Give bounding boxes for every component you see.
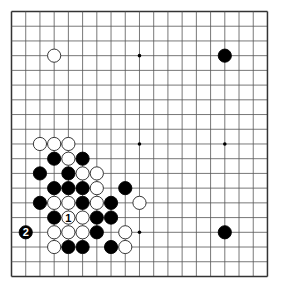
white-stone <box>76 167 89 180</box>
black-stone <box>48 152 61 165</box>
move-number-label: 2 <box>23 226 29 238</box>
black-stone <box>62 240 75 253</box>
black-stone <box>76 152 89 165</box>
star-point <box>138 142 142 146</box>
white-stone <box>62 196 75 209</box>
star-point <box>138 231 142 235</box>
black-stone <box>119 182 132 195</box>
black-stone <box>76 196 89 209</box>
white-stone <box>48 137 61 150</box>
star-point <box>138 54 142 58</box>
black-stone <box>48 182 61 195</box>
star-point <box>223 142 227 146</box>
white-stone <box>133 196 146 209</box>
white-stone-move-1: 1 <box>62 211 75 224</box>
white-stone <box>119 240 132 253</box>
white-stone <box>48 49 61 62</box>
white-stone <box>62 152 75 165</box>
white-stone <box>62 226 75 239</box>
white-stone <box>48 196 61 209</box>
white-stone <box>119 226 132 239</box>
black-stone <box>76 182 89 195</box>
black-stone <box>62 167 75 180</box>
white-stone <box>90 167 103 180</box>
black-stone <box>90 211 103 224</box>
white-stone <box>62 137 75 150</box>
black-stone <box>104 240 117 253</box>
white-stone <box>48 226 61 239</box>
black-stone <box>90 226 103 239</box>
black-stone <box>104 211 117 224</box>
white-stone <box>76 211 89 224</box>
black-stone <box>218 226 231 239</box>
black-stone <box>62 182 75 195</box>
black-stone <box>33 196 46 209</box>
go-board: 12 <box>0 0 281 290</box>
black-stone-move-2: 2 <box>19 226 32 239</box>
black-stone <box>76 240 89 253</box>
black-stone <box>48 211 61 224</box>
white-stone <box>33 137 46 150</box>
white-stone <box>48 240 61 253</box>
black-stone <box>33 167 46 180</box>
white-stone <box>76 226 89 239</box>
white-stone <box>90 196 103 209</box>
black-stone <box>104 196 117 209</box>
move-number-label: 1 <box>65 212 71 224</box>
white-stone <box>90 182 103 195</box>
black-stone <box>218 49 231 62</box>
